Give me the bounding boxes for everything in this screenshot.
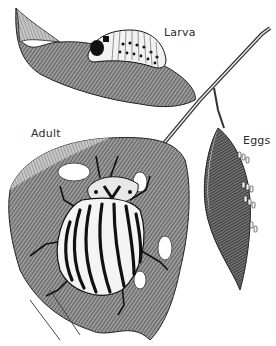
illustration-canvas <box>0 0 276 346</box>
leaf-hole <box>158 236 172 260</box>
larva-label: Larva <box>164 26 196 39</box>
leaf-hole <box>58 163 90 181</box>
egg-leaf <box>204 128 250 290</box>
leaf-hole <box>134 271 146 289</box>
adult-label: Adult <box>31 127 61 140</box>
eggs-label: Eggs <box>243 134 270 147</box>
